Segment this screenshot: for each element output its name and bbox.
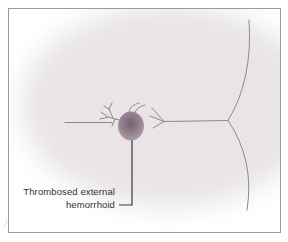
page-artifact-mark (0, 217, 7, 229)
figure-label: Thrombosed external hemorrhoid (13, 185, 115, 211)
skin-region (21, 9, 280, 208)
thrombosed-hemorrhoid-mass (118, 112, 144, 141)
figure-label-line2: hemorrhoid (13, 198, 115, 211)
illustration-frame: Thrombosed external hemorrhoid (8, 8, 281, 233)
figure-canvas: Thrombosed external hemorrhoid (0, 0, 288, 242)
figure-label-line1: Thrombosed external (13, 185, 115, 198)
